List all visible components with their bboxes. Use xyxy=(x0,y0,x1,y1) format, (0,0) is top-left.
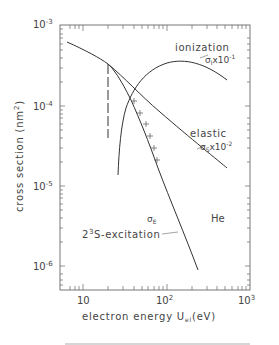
x-axis-label: electron energy Uel(eV) xyxy=(82,311,216,323)
cross-section-chart: 10-3 10-4 10-5 10-6 10 102 103 electron … xyxy=(0,0,279,345)
sigma-s-label: σSx10-2 xyxy=(200,140,232,153)
y-ticks xyxy=(60,29,250,285)
ionization-label: ionization xyxy=(175,42,230,53)
x-tick-100: 102 xyxy=(156,294,173,306)
sigma-e-label: σE xyxy=(147,214,157,225)
x-tick-10: 10 xyxy=(77,295,90,306)
ionization-curve xyxy=(118,61,227,175)
y-tick-1e-5: 10-5 xyxy=(33,180,53,192)
sigma-i-label: σIx10-1 xyxy=(205,53,235,66)
excitation-label: 23S-excitation xyxy=(82,228,160,240)
y-tick-1e-4: 10-4 xyxy=(33,100,53,112)
y-axis-label: cross section (nm2) xyxy=(13,100,25,212)
he-label: He xyxy=(211,213,225,224)
y-tick-1e-3: 10-3 xyxy=(33,18,53,30)
x-tick-1000: 103 xyxy=(238,294,255,306)
sigma-e-leader xyxy=(162,232,178,234)
y-tick-1e-6: 10-6 xyxy=(33,260,53,272)
elastic-label: elastic xyxy=(190,128,227,139)
